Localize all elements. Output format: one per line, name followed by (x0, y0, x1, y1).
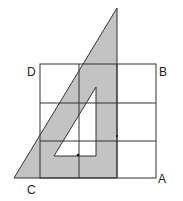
label-d: D (27, 65, 36, 79)
point-dot (77, 154, 80, 157)
label-c: C (27, 183, 36, 197)
label-a: A (158, 172, 166, 186)
point-dot (116, 135, 118, 137)
geometry-diagram: D B A C (0, 0, 183, 201)
label-b: B (159, 65, 167, 79)
set-square-triangle (14, 8, 117, 178)
